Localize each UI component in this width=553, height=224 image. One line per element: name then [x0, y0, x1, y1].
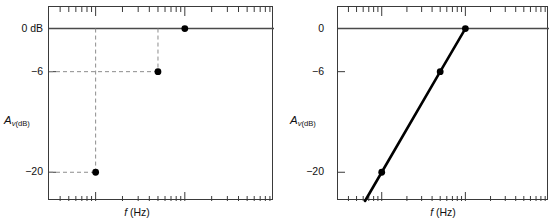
- data-points: [92, 25, 188, 176]
- y-tick-label-minus6-left: −6: [0, 66, 43, 76]
- y-tick-label-minus20-left: −20: [0, 166, 43, 176]
- data-point-0: [92, 169, 99, 176]
- y-tick-label-minus6-right: −6: [288, 66, 324, 76]
- data-point-2: [181, 25, 188, 32]
- y-axis-ticks: [338, 72, 345, 173]
- chart-panel-right: Av(dB) 0 −6 −20 100 f (Hz): [278, 0, 553, 224]
- x-axis-label-left: f (Hz): [124, 206, 150, 218]
- plot-canvas-right: [338, 7, 549, 201]
- plot-canvas-left: [49, 7, 274, 201]
- plot-frame-right: [337, 6, 548, 200]
- chart-panel-left: Av(dB) 0 dB −6 −20 10 50 100 f (Hz): [0, 0, 278, 224]
- data-point-2: [462, 25, 469, 32]
- plot-frame-left: [48, 6, 273, 200]
- y-axis-label-right: Av(dB): [290, 114, 316, 126]
- data-point-0: [378, 169, 385, 176]
- bode-plot-figure: Av(dB) 0 dB −6 −20 10 50 100 f (Hz) Av(d…: [0, 0, 553, 224]
- y-tick-label-0db-left: 0 dB: [0, 23, 43, 33]
- data-point-1: [155, 68, 162, 75]
- y-axis-ticks: [49, 72, 56, 173]
- axis-ticks: [348, 7, 545, 201]
- y-tick-label-minus20-right: −20: [288, 166, 324, 176]
- y-tick-label-0-right: 0: [288, 23, 324, 33]
- y-axis-label-left: Av(dB): [4, 114, 30, 126]
- guide-lines: [49, 29, 158, 173]
- data-point-1: [437, 68, 444, 75]
- x-axis-label-right: f (Hz): [430, 206, 456, 218]
